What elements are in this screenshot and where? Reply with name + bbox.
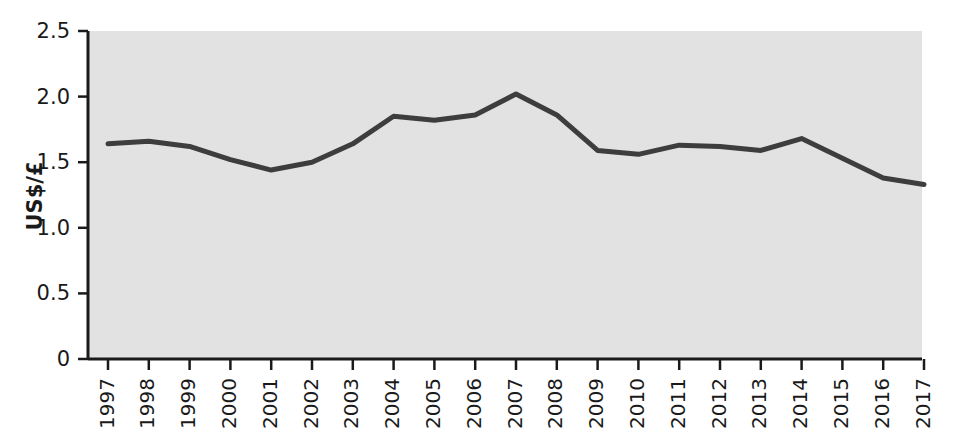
y-axis-title: US$/£ [23, 161, 47, 230]
x-tick-label: 2004 [380, 378, 404, 429]
plot-area-background [88, 31, 922, 359]
y-tick-label: 0 [57, 347, 70, 371]
x-tick-label: 1999 [176, 378, 200, 429]
x-tick-label: 2017 [911, 378, 935, 429]
x-axis-tick-labels: 1997199819992000200120022003200420052006… [95, 378, 935, 429]
y-tick-label: 2.0 [37, 85, 70, 109]
x-tick-label: 2013 [747, 378, 771, 429]
y-tick-label: 0.5 [37, 281, 70, 305]
x-tick-label: 2001 [258, 378, 282, 429]
x-tick-label: 2010 [625, 378, 649, 429]
x-tick-label: 2009 [584, 378, 608, 429]
x-tick-label: 2015 [829, 378, 853, 429]
x-tick-label: 2000 [217, 378, 241, 429]
line-chart-svg: 00.51.01.52.02.5 19971998199920002001200… [0, 0, 957, 438]
x-tick-label: 2007 [503, 378, 527, 429]
x-tick-label: 2011 [666, 378, 690, 429]
x-tick-label: 2002 [299, 378, 323, 429]
x-tick-label: 2016 [870, 378, 894, 429]
x-tick-label: 2005 [421, 378, 445, 429]
x-axis-ticks [108, 359, 924, 370]
x-tick-label: 1997 [95, 378, 119, 429]
y-tick-label: 2.5 [37, 19, 70, 43]
x-tick-label: 2012 [707, 378, 731, 429]
x-tick-label: 2008 [543, 378, 567, 429]
x-tick-label: 1998 [135, 378, 159, 429]
chart-container: 00.51.01.52.02.5 19971998199920002001200… [0, 0, 957, 438]
x-tick-label: 2006 [462, 378, 486, 429]
x-tick-label: 2014 [788, 378, 812, 429]
x-tick-label: 2003 [339, 378, 363, 429]
